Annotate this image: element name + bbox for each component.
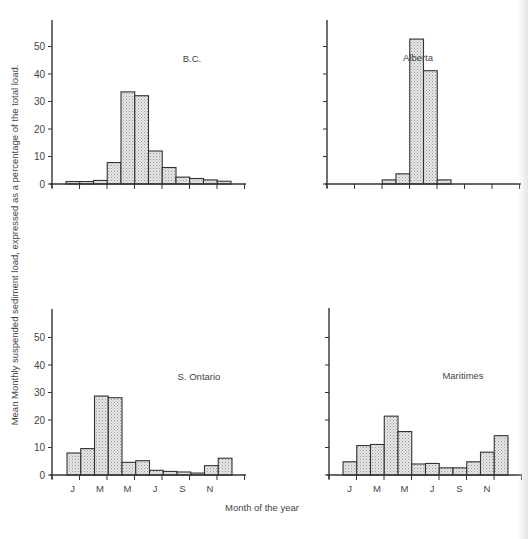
panel-title: Alberta bbox=[403, 52, 434, 63]
bar-m-5 bbox=[121, 92, 135, 184]
bar-m-3 bbox=[371, 444, 385, 475]
bar-s-9 bbox=[176, 177, 190, 184]
bar-a-4 bbox=[107, 163, 121, 184]
bar-o-10 bbox=[467, 462, 481, 475]
bar-a-4 bbox=[384, 416, 398, 475]
bar-j-7 bbox=[149, 151, 163, 184]
panel-title: B.C. bbox=[183, 53, 201, 64]
bar-s-9 bbox=[453, 468, 467, 475]
x-tick-label: N bbox=[207, 483, 214, 494]
bar-j-7 bbox=[424, 71, 438, 184]
y-tick-label: 20 bbox=[34, 124, 46, 135]
bar-m-5 bbox=[396, 174, 410, 184]
chart-panel-maritimes: JMMJSNMaritimes bbox=[325, 308, 522, 494]
bar-m-5 bbox=[398, 432, 412, 475]
x-tick-label: M bbox=[124, 483, 132, 494]
sediment-load-figure: 01020304050B.C. Alberta 01020304050JMMJS… bbox=[0, 0, 528, 539]
bar-a-8 bbox=[162, 168, 176, 185]
x-tick-label: N bbox=[484, 483, 491, 494]
y-tick-label: 30 bbox=[34, 387, 46, 398]
bar-n-11 bbox=[205, 466, 219, 475]
y-tick-label: 20 bbox=[34, 415, 46, 426]
chart-panel-s-ontario: 01020304050JMMJSNS. Ontario bbox=[34, 309, 246, 494]
y-axis-label: Mean Monthly suspended sediment load, ex… bbox=[9, 65, 20, 426]
bar-j-7 bbox=[150, 470, 164, 475]
y-tick-label: 0 bbox=[39, 179, 45, 190]
x-tick-label: M bbox=[96, 483, 104, 494]
bar-d-12 bbox=[218, 458, 232, 475]
bar-n-11 bbox=[481, 452, 495, 475]
y-tick-label: 10 bbox=[34, 442, 46, 453]
y-tick-label: 50 bbox=[34, 332, 46, 343]
x-tick-label: J bbox=[70, 483, 75, 494]
panel-title: S. Ontario bbox=[178, 371, 221, 382]
chart-panel-bc: 01020304050B.C. bbox=[34, 20, 246, 190]
x-tick-label: J bbox=[430, 483, 435, 494]
x-tick-label: S bbox=[456, 483, 462, 494]
y-tick-label: 10 bbox=[34, 151, 46, 162]
bar-j-6 bbox=[412, 464, 426, 475]
charts-canvas: 01020304050B.C. Alberta 01020304050JMMJS… bbox=[0, 0, 528, 539]
x-tick-label: J bbox=[153, 483, 158, 494]
bar-m-5 bbox=[122, 462, 136, 475]
x-tick-label: M bbox=[401, 483, 409, 494]
bar-m-3 bbox=[95, 396, 109, 475]
bar-d-12 bbox=[494, 436, 508, 475]
y-tick-label: 0 bbox=[39, 470, 45, 481]
bar-j-1 bbox=[67, 453, 81, 475]
bar-f-2 bbox=[81, 449, 95, 475]
bar-a-4 bbox=[108, 398, 122, 475]
bar-j-6 bbox=[135, 96, 149, 184]
bar-j-1 bbox=[343, 462, 357, 475]
x-tick-label: J bbox=[347, 483, 352, 494]
x-tick-label: M bbox=[373, 483, 381, 494]
bar-a-8 bbox=[439, 468, 453, 475]
bar-j-7 bbox=[426, 463, 440, 475]
x-tick-label: S bbox=[179, 483, 185, 494]
y-tick-label: 50 bbox=[34, 41, 46, 52]
bar-o-10 bbox=[190, 179, 204, 185]
panel-title: Maritimes bbox=[442, 370, 483, 381]
y-tick-label: 40 bbox=[34, 360, 46, 371]
x-axis-label: Month of the year bbox=[225, 502, 299, 513]
y-tick-label: 40 bbox=[34, 69, 46, 80]
bar-f-2 bbox=[357, 446, 371, 475]
page-edge-shadow bbox=[518, 0, 528, 539]
chart-panel-alberta: Alberta bbox=[323, 20, 521, 189]
y-tick-label: 30 bbox=[34, 96, 46, 107]
bar-j-6 bbox=[136, 461, 150, 475]
